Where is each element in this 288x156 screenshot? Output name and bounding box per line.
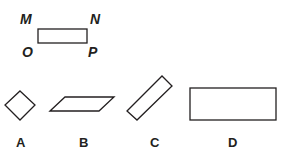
vertex-label-m: M xyxy=(20,11,32,27)
option-label-a: A xyxy=(16,135,26,150)
parallelogram-shape xyxy=(50,97,114,111)
reference-rectangle xyxy=(38,29,87,43)
option-label-b: B xyxy=(79,135,88,150)
option-label-d: D xyxy=(228,135,237,150)
option-b: B xyxy=(50,97,114,150)
vertex-label-p: P xyxy=(88,44,98,60)
rotated-rectangle-shape xyxy=(127,76,172,120)
diagram-canvas: M N O P A B C D xyxy=(0,0,288,156)
reference-rectangle-group: M N O P xyxy=(20,11,101,60)
option-d: D xyxy=(190,88,276,150)
vertex-label-n: N xyxy=(90,11,101,27)
rectangle-shape xyxy=(190,88,276,120)
option-label-c: C xyxy=(150,135,160,150)
diamond-shape xyxy=(5,91,35,120)
option-c: C xyxy=(127,76,172,150)
vertex-label-o: O xyxy=(22,44,33,60)
option-a: A xyxy=(5,91,35,150)
